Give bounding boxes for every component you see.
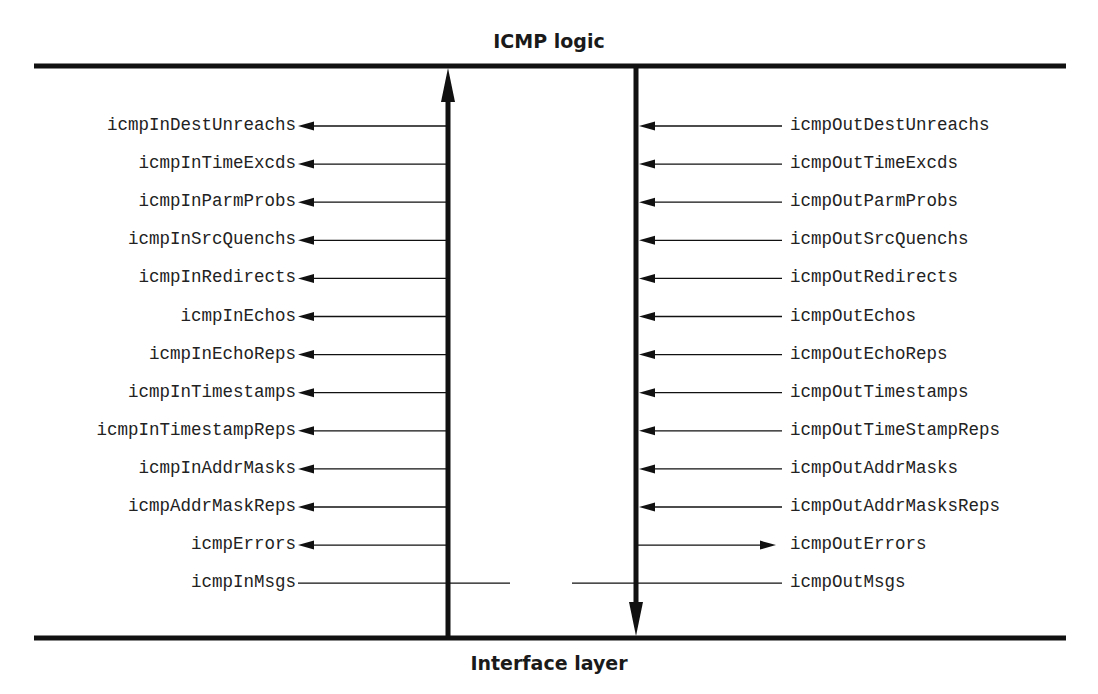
input-counter-arrow [298,350,448,359]
output-counter-label: icmpOutEchoReps [790,344,948,364]
input-counter-label: icmpAddrMaskReps [6,496,296,516]
output-counter-arrow [639,160,782,169]
output-counter-label: icmpOutAddrMasksReps [790,496,1000,516]
output-counter-arrow [639,274,782,283]
input-counter-label: icmpInRedirects [6,267,296,287]
input-counter-label: icmpInEchos [6,306,296,326]
left-arrowhead-icon [298,426,314,435]
output-counter-arrow [639,198,782,207]
output-counter-arrow [639,312,782,321]
left-arrowhead-icon [298,122,314,131]
output-counter-label: icmpOutAddrMasks [790,458,958,478]
down-arrowhead-icon [629,602,643,636]
output-counter-label: icmpOutEchos [790,306,916,326]
left-arrowhead-icon [639,350,655,359]
left-arrowhead-icon [298,274,314,283]
input-counter-arrows [298,122,510,584]
left-arrowhead-icon [298,160,314,169]
input-counter-arrow [298,122,448,131]
input-counter-label: icmpInEchoReps [6,344,296,364]
input-counter-label: icmpInTimestamps [6,382,296,402]
input-counter-arrow [298,464,448,473]
left-arrowhead-icon [639,312,655,321]
output-counter-label: icmpOutTimeExcds [790,153,958,173]
left-arrowhead-icon [298,198,314,207]
left-arrowhead-icon [639,388,655,397]
input-counter-arrow [298,426,448,435]
input-counter-arrow [298,312,448,321]
output-counter-label: icmpOutDestUnreachs [790,115,990,135]
output-counter-label: icmpOutMsgs [790,572,906,592]
output-counter-arrow [638,541,776,550]
output-counter-arrow [639,350,782,359]
left-arrowhead-icon [298,312,314,321]
input-counter-arrow [298,541,448,550]
left-arrowhead-icon [639,503,655,512]
left-arrowhead-icon [298,464,314,473]
left-arrowhead-icon [639,198,655,207]
output-trunk-arrow [629,66,643,636]
left-arrowhead-icon [298,350,314,359]
left-arrowhead-icon [639,274,655,283]
input-counter-label: icmpInMsgs [6,572,296,592]
input-counter-label: icmpInParmProbs [6,191,296,211]
output-counter-label: icmpOutErrors [790,534,927,554]
output-counter-arrow [639,464,782,473]
input-counter-label: icmpInTimestampReps [6,420,296,440]
input-counter-label: icmpInSrcQuenchs [6,229,296,249]
input-counter-arrow [298,236,448,245]
left-arrowhead-icon [639,464,655,473]
input-counter-arrow [298,198,448,207]
output-counter-label: icmpOutTimeStampReps [790,420,1000,440]
left-arrowhead-icon [639,236,655,245]
output-counter-arrow [639,236,782,245]
output-counter-arrow [639,426,782,435]
left-arrowhead-icon [639,426,655,435]
input-counter-arrow [298,160,448,169]
left-arrowhead-icon [298,541,314,550]
input-trunk-arrow [441,68,455,638]
icmp-counter-diagram: ICMP logic Interface layer icmpInDestUnr… [0,0,1098,694]
output-counter-arrow [639,503,782,512]
left-arrowhead-icon [639,160,655,169]
up-arrowhead-icon [441,68,455,102]
left-arrowhead-icon [298,388,314,397]
output-counter-arrow [639,122,782,131]
output-counter-label: icmpOutRedirects [790,267,958,287]
input-counter-label: icmpErrors [6,534,296,554]
input-counter-arrow [298,388,448,397]
right-arrowhead-icon [760,541,776,550]
input-counter-label: icmpInDestUnreachs [6,115,296,135]
output-counter-label: icmpOutParmProbs [790,191,958,211]
input-counter-arrow [298,503,448,512]
output-counter-arrow [639,388,782,397]
input-counter-arrow [298,274,448,283]
output-counter-label: icmpOutSrcQuenchs [790,229,969,249]
output-counter-label: icmpOutTimestamps [790,382,969,402]
output-counter-arrows [572,122,782,584]
input-counter-label: icmpInTimeExcds [6,153,296,173]
left-arrowhead-icon [298,236,314,245]
left-arrowhead-icon [639,122,655,131]
input-counter-label: icmpInAddrMasks [6,458,296,478]
left-arrowhead-icon [298,503,314,512]
